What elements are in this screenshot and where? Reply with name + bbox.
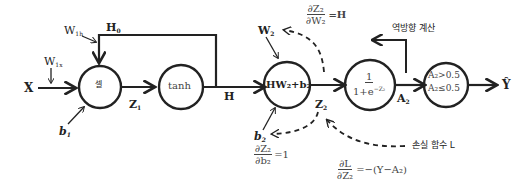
label-a2-sub: 2 [406, 98, 410, 105]
cell-node-label: 셀 [95, 81, 102, 89]
label-h0-sub: 0 [116, 27, 120, 34]
dl-dz2-numerator: ∂L [338, 158, 352, 170]
label-z1-main: Z [129, 98, 137, 111]
label-w2: W2 [258, 25, 275, 37]
formula-dz2-db2: ∂Z₂ ∂b₂ =1 [254, 143, 289, 166]
label-b2: b2 [254, 131, 266, 143]
label-h: H [224, 91, 234, 102]
dashed-arrow-loss-to-z2 [327, 120, 405, 146]
label-w1x-sub: 1x [55, 61, 62, 68]
label-a2-main: A [397, 92, 406, 105]
label-z1: Z1 [129, 99, 141, 111]
tanh-node-label: tanh [168, 81, 191, 91]
threshold-line-1: A₂>0.5 [428, 71, 460, 80]
backward-label: 역방향 계산 [392, 24, 435, 33]
label-b2-main: b [254, 130, 262, 143]
formula-dz2-dw2: ∂Z₂ ∂W₂ =H [305, 3, 346, 26]
label-z2-sub: 2 [323, 104, 327, 111]
threshold-line-2: A₂≤0.5 [428, 84, 460, 93]
label-w1h-main: W [64, 24, 75, 37]
sigmoid-numerator: 1 [365, 71, 373, 83]
label-z2-main: Z [315, 98, 323, 111]
sigmoid-den-base: 1+e [353, 86, 374, 97]
dz2-dw2-value: =H [328, 9, 346, 20]
label-h0-main: H [106, 21, 116, 34]
label-w1h: W1h [64, 25, 83, 37]
edge-b1 [68, 107, 84, 124]
dashed-arrow-to-b2 [272, 112, 318, 134]
loss-function-label: 손실 함수 L [412, 141, 455, 150]
label-w1x-main: W [44, 55, 55, 68]
dl-dz2-value: =−(Y−A₂) [356, 164, 407, 175]
edge-b2 [263, 108, 275, 130]
sigmoid-denominator: 1+e−Z₂ [352, 83, 386, 97]
sigmoid-den-exp: −Z₂ [374, 85, 386, 92]
label-b1-main: b [59, 125, 67, 138]
dz2-dw2-numerator: ∂Z₂ [307, 3, 325, 15]
label-b1-sub: 1 [67, 131, 71, 138]
label-b2-sub: 2 [262, 136, 266, 143]
dz2-dw2-denominator: ∂W₂ [305, 15, 326, 26]
dashed-arrow-to-w2 [284, 30, 324, 72]
dz2-db2-numerator: ∂Z₂ [254, 143, 272, 155]
edge-w2 [266, 37, 278, 58]
label-b1: b1 [59, 126, 71, 138]
label-z2: Z2 [315, 99, 327, 111]
label-x: X [24, 82, 33, 94]
dl-dz2-denominator: ∂Z₂ [336, 170, 354, 181]
label-w1x: W1x [44, 56, 63, 68]
dz2-db2-value: =1 [274, 149, 289, 160]
formula-dl-dz2: ∂L ∂Z₂ =−(Y−A₂) [336, 158, 407, 181]
label-w2-main: W [258, 24, 270, 37]
edge-recurrent-h [99, 35, 216, 87]
edge-w1h [82, 36, 96, 42]
label-a2: A2 [397, 93, 410, 105]
sigmoid-formula: 1 1+e−Z₂ [352, 71, 388, 97]
label-z1-sub: 1 [137, 104, 141, 111]
linear-node-label: HW₂+b₂ [266, 80, 311, 90]
label-output-yhat: Ŷ [502, 79, 511, 91]
label-w2-sub: 2 [270, 30, 274, 37]
label-w1h-sub: 1h [75, 30, 83, 37]
dz2-db2-denominator: ∂b₂ [254, 155, 272, 166]
label-h0: H0 [106, 22, 121, 34]
